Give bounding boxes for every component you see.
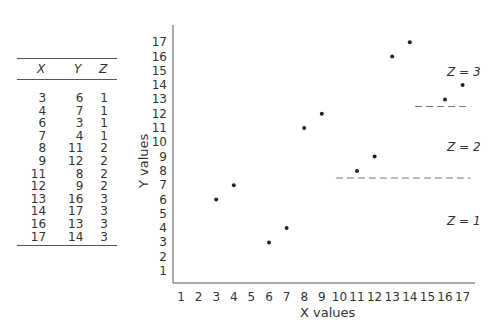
- x-tick-label: 2: [195, 290, 203, 304]
- data-point: [232, 183, 236, 187]
- y-tick-label: 12: [152, 107, 167, 121]
- y-tick-label: 17: [152, 35, 167, 49]
- annotation-z3: Z = 3: [446, 65, 481, 79]
- x-tick-label: 3: [212, 290, 220, 304]
- x-tick-label: 7: [283, 290, 291, 304]
- data-point: [320, 112, 324, 116]
- data-point: [285, 226, 289, 230]
- data-point: [443, 97, 447, 101]
- y-tick-label: 3: [159, 235, 167, 249]
- y-tick-label: 13: [152, 92, 167, 106]
- y-tick-label: 16: [152, 50, 167, 64]
- x-tick-label: 12: [367, 290, 382, 304]
- data-points: [214, 40, 464, 244]
- x-tick-label: 16: [437, 290, 452, 304]
- y-axis-label: Y values: [136, 133, 151, 189]
- data-point: [390, 55, 394, 59]
- annotation-z2: Z = 2: [446, 140, 481, 154]
- x-tick-label: 8: [300, 290, 308, 304]
- y-tick-label: 1: [159, 264, 167, 278]
- x-tick-label: 15: [420, 290, 435, 304]
- y-tick-label: 7: [159, 178, 167, 192]
- data-point: [461, 83, 465, 87]
- y-tick-label: 9: [159, 150, 167, 164]
- x-tick-label: 4: [230, 290, 238, 304]
- x-tick-label: 17: [455, 290, 470, 304]
- x-tick-label: 9: [318, 290, 326, 304]
- data-point: [302, 126, 306, 130]
- x-tick-label: 13: [385, 290, 400, 304]
- y-tick-label: 10: [152, 135, 167, 149]
- x-axis-label: X values: [300, 305, 356, 320]
- data-point: [267, 240, 271, 244]
- x-tick-labels: 1234567891011121314151617: [177, 290, 470, 304]
- y-tick-label: 5: [159, 207, 167, 221]
- data-point: [214, 198, 218, 202]
- y-tick-label: 2: [159, 250, 167, 264]
- x-tick-label: 11: [349, 290, 364, 304]
- data-point: [373, 155, 377, 159]
- scatter-chart: 1234567891011121314151617 12345678910111…: [0, 0, 489, 333]
- y-tick-label: 15: [152, 64, 167, 78]
- x-tick-label: 6: [265, 290, 273, 304]
- y-tick-label: 8: [159, 164, 167, 178]
- y-tick-label: 4: [159, 221, 167, 235]
- x-tick-label: 1: [177, 290, 185, 304]
- y-tick-label: 6: [159, 193, 167, 207]
- data-point: [355, 169, 359, 173]
- x-tick-label: 14: [402, 290, 417, 304]
- x-tick-label: 10: [332, 290, 347, 304]
- y-tick-labels: 1234567891011121314151617: [152, 35, 167, 278]
- annotation-z1: Z = 1: [446, 214, 481, 228]
- x-tick-label: 5: [248, 290, 256, 304]
- y-tick-label: 14: [152, 78, 167, 92]
- data-point: [408, 40, 412, 44]
- y-tick-label: 11: [152, 121, 167, 135]
